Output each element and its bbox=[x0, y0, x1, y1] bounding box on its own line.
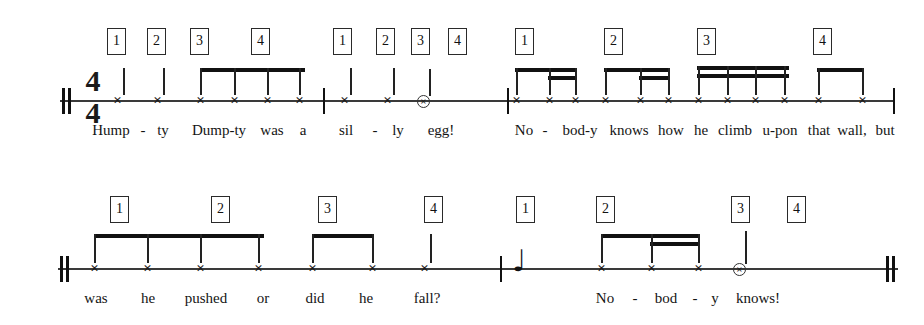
lyric-syllable: but bbox=[875, 122, 894, 139]
notehead-x: × bbox=[662, 94, 675, 107]
notehead-x: × bbox=[418, 262, 431, 275]
notehead-x: × bbox=[252, 262, 265, 275]
note-stem bbox=[516, 68, 518, 95]
lyric-syllable: fall? bbox=[414, 290, 441, 307]
note-stem bbox=[549, 68, 551, 95]
note-stem bbox=[430, 234, 432, 263]
note-stem bbox=[651, 234, 653, 263]
beat-box-3: 3 bbox=[190, 28, 209, 55]
note-stem bbox=[267, 68, 269, 95]
note-stem bbox=[163, 68, 165, 95]
beat-box-2: 2 bbox=[147, 28, 166, 55]
note-stem bbox=[601, 234, 603, 263]
beat-box-4: 4 bbox=[787, 196, 806, 223]
lyric-syllable: bod-y bbox=[563, 122, 598, 139]
notehead-x: × bbox=[293, 94, 306, 107]
beam-primary bbox=[817, 68, 863, 72]
lyric-hyphen: - bbox=[373, 122, 378, 139]
note-stem bbox=[668, 68, 670, 95]
beat-box-2: 2 bbox=[596, 196, 615, 223]
note-stem bbox=[698, 66, 700, 95]
beat-box-1: 1 bbox=[333, 28, 352, 55]
lyric-syllable: did bbox=[305, 290, 324, 307]
notehead-x: × bbox=[306, 262, 319, 275]
beat-box-4: 4 bbox=[251, 28, 270, 55]
rhythm-score: 4 4 1 2 3 4 1 2 3 4 1 2 3 4 × × × bbox=[0, 0, 924, 325]
notehead-x: × bbox=[366, 262, 379, 275]
lyric-syllable: u-pon bbox=[763, 122, 798, 139]
notehead-x: × bbox=[778, 94, 791, 107]
beat-box-4: 4 bbox=[424, 196, 443, 223]
notehead-x: × bbox=[645, 262, 658, 275]
lyric-syllable: that bbox=[808, 122, 831, 139]
beam-primary bbox=[200, 68, 305, 72]
notehead-x: × bbox=[543, 94, 556, 107]
notehead-x: × bbox=[88, 262, 101, 275]
beam-primary bbox=[697, 66, 789, 70]
note-stem bbox=[123, 68, 125, 95]
notehead-x: × bbox=[194, 94, 207, 107]
lyric-syllable: he bbox=[141, 290, 155, 307]
beat-box-1: 1 bbox=[107, 28, 126, 55]
beat-box-4: 4 bbox=[813, 28, 832, 55]
lyric-syllable: was bbox=[84, 290, 107, 307]
note-stem bbox=[575, 68, 577, 95]
opening-double-barline bbox=[60, 256, 72, 282]
note-stem bbox=[745, 231, 747, 264]
beam-primary bbox=[312, 234, 374, 238]
opening-double-barline bbox=[62, 88, 74, 114]
beam-secondary bbox=[639, 76, 670, 80]
note-stem bbox=[755, 66, 757, 95]
note-stem bbox=[727, 66, 729, 95]
lyric-syllable: No bbox=[596, 290, 614, 307]
staff-line bbox=[58, 268, 898, 270]
note-stem bbox=[200, 234, 202, 263]
beat-box-1: 1 bbox=[516, 196, 535, 223]
lyric-syllable: ly bbox=[392, 122, 404, 139]
note-stem bbox=[234, 68, 236, 95]
notehead-x: × bbox=[141, 262, 154, 275]
lyric-hyphen: - bbox=[141, 122, 146, 139]
note-stem bbox=[350, 68, 352, 95]
lyric-syllable: No bbox=[515, 122, 533, 139]
lyric-syllable: a bbox=[300, 122, 307, 139]
lyric-syllable: how bbox=[658, 122, 684, 139]
notehead-x: × bbox=[692, 262, 705, 275]
final-double-barline bbox=[886, 256, 898, 282]
notehead-x: × bbox=[634, 94, 647, 107]
beat-box-3: 3 bbox=[411, 28, 430, 55]
note-stem bbox=[258, 234, 260, 263]
beat-box-3: 3 bbox=[697, 28, 716, 55]
lyric-syllable: Dump-ty bbox=[192, 122, 246, 139]
note-stem bbox=[862, 68, 864, 95]
notehead-x: × bbox=[194, 262, 207, 275]
barline bbox=[500, 256, 502, 282]
lyric-syllable: or bbox=[257, 290, 270, 307]
lyric-syllable: egg! bbox=[428, 122, 455, 139]
note-stem bbox=[818, 68, 820, 95]
notehead-x: × bbox=[749, 94, 762, 107]
staff-system-1: 4 4 1 2 3 4 1 2 3 4 1 2 3 4 × × × bbox=[0, 0, 924, 160]
lyric-syllable: Hump bbox=[92, 122, 130, 139]
note-stem bbox=[312, 234, 314, 263]
notehead-x: × bbox=[569, 94, 582, 107]
note-stem bbox=[429, 69, 431, 96]
beam-primary bbox=[604, 68, 670, 72]
note-stem bbox=[784, 66, 786, 95]
beat-box-1: 1 bbox=[110, 196, 129, 223]
beam-secondary bbox=[697, 74, 789, 78]
barline bbox=[323, 88, 325, 114]
lyric-syllable: pushed bbox=[185, 290, 228, 307]
notehead-x: × bbox=[510, 94, 523, 107]
beat-box-3: 3 bbox=[731, 196, 750, 223]
beat-box-3: 3 bbox=[318, 196, 337, 223]
note-stem bbox=[372, 234, 374, 263]
beat-box-1: 1 bbox=[515, 28, 534, 55]
quarter-rest: ♩ bbox=[512, 246, 526, 276]
note-stem bbox=[605, 68, 607, 95]
lyric-syllable: was bbox=[260, 122, 283, 139]
notehead-x-circled: × bbox=[733, 263, 746, 276]
beam-primary bbox=[601, 234, 699, 238]
beam-primary bbox=[94, 234, 264, 238]
barline bbox=[893, 88, 895, 114]
